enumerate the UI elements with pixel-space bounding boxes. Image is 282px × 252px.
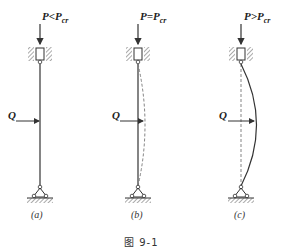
guide-hatch-left bbox=[126, 47, 132, 61]
subfigure-label-a: (a) bbox=[31, 209, 43, 220]
load-label-a: P<Pcr bbox=[42, 10, 68, 25]
lateral-load-label-b: Q bbox=[112, 109, 120, 121]
load-label-b: P=Pcr bbox=[140, 10, 166, 25]
slider-block bbox=[237, 48, 245, 60]
load-symbol: P bbox=[140, 10, 147, 22]
guide-hatch-right bbox=[144, 47, 150, 61]
critical-load-symbol: P bbox=[257, 10, 264, 22]
lateral-load-label-c: Q bbox=[219, 109, 227, 121]
guide-hatch-left bbox=[28, 47, 34, 61]
guide-hatch-left bbox=[229, 47, 235, 61]
guide-hatch-right bbox=[247, 47, 253, 61]
critical-subscript: cr bbox=[160, 16, 167, 25]
subfigure-label-b: (b) bbox=[131, 209, 143, 220]
deflected-shape-dashed bbox=[138, 64, 145, 186]
load-label-c: P>Pcr bbox=[244, 10, 270, 25]
subfigure-label-c: (c) bbox=[234, 209, 245, 220]
slider-block bbox=[36, 48, 44, 60]
buckled-column bbox=[241, 64, 257, 186]
critical-subscript: cr bbox=[62, 16, 69, 25]
panel-b bbox=[120, 24, 151, 203]
pin-support bbox=[125, 185, 151, 203]
load-symbol: P bbox=[244, 10, 251, 22]
top-pin bbox=[38, 60, 42, 64]
top-pin bbox=[239, 60, 243, 64]
guide-hatch-right bbox=[46, 47, 52, 61]
figure-caption: 图 9-1 bbox=[124, 234, 159, 249]
top-pin bbox=[136, 60, 140, 64]
slider-block bbox=[134, 48, 142, 60]
pin-support bbox=[228, 185, 254, 203]
lateral-load-label-a: Q bbox=[8, 109, 16, 121]
panel-a bbox=[16, 24, 53, 203]
critical-load-symbol: P bbox=[153, 10, 160, 22]
pin-support bbox=[27, 185, 53, 203]
load-symbol: P bbox=[42, 10, 49, 22]
critical-load-symbol: P bbox=[55, 10, 62, 22]
critical-subscript: cr bbox=[264, 16, 271, 25]
panel-c bbox=[228, 24, 257, 203]
